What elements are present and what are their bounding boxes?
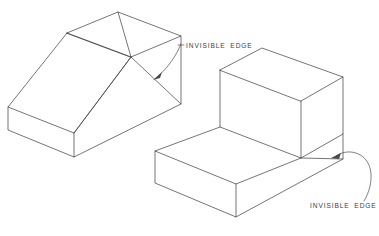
drawing-canvas: INVISIBLE EDGE INVISIBLE EDGE bbox=[0, 0, 379, 236]
callout-label-left: INVISIBLE EDGE bbox=[186, 42, 253, 49]
callout-label-right: INVISIBLE EDGE bbox=[310, 202, 377, 209]
right-solid bbox=[155, 48, 343, 217]
left-solid bbox=[8, 12, 181, 157]
isometric-drawing: INVISIBLE EDGE INVISIBLE EDGE bbox=[0, 0, 379, 236]
